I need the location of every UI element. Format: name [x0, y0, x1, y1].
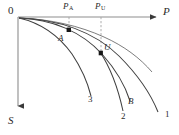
curve-2	[100, 52, 123, 111]
diagram-canvas	[0, 0, 179, 135]
point-a-label: A	[58, 34, 64, 43]
pressure-entropy-diagram: 0 P S PA PU A U 3 B 2 1	[0, 0, 179, 135]
point-a-marker	[67, 28, 71, 32]
y-axis-label: S	[8, 115, 14, 126]
curve-label-b: B	[128, 97, 134, 106]
point-u-label: U	[104, 43, 111, 52]
tick-label-pu-subscript: U	[101, 5, 105, 11]
curve-envelope-upper	[19, 18, 152, 72]
origin-label: 0	[8, 5, 14, 16]
tick-label-pa-base: P	[63, 1, 69, 11]
tick-label-pu: PU	[95, 2, 105, 11]
curve-label-1: 1	[165, 110, 170, 119]
tick-label-pa: PA	[63, 2, 73, 11]
curve-3	[19, 18, 91, 96]
curve-label-2: 2	[121, 112, 126, 121]
tick-label-pu-base: P	[95, 1, 101, 11]
tick-label-pa-subscript: A	[69, 5, 73, 11]
curve-b	[19, 18, 130, 101]
point-u-marker	[99, 51, 103, 56]
x-axis-label: P	[163, 6, 170, 17]
curve-label-3: 3	[88, 95, 93, 104]
